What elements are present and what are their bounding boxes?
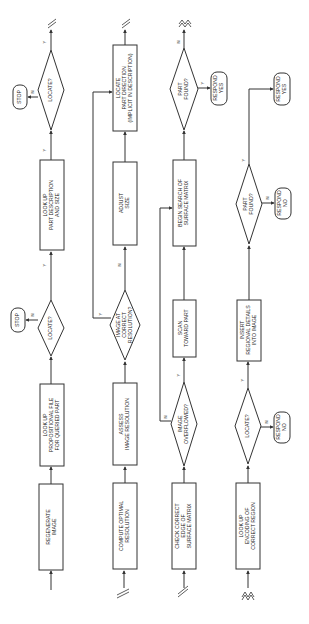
node-label: IMAGE [51,518,57,535]
node-label: CORRECT REGION [250,502,256,550]
branch-label-yes: Y [42,263,47,266]
process-compute-optimal-resolution: COMPUTE OPTIMAL RESOLUTION [113,483,137,569]
branch-label-yes: Y [42,40,47,43]
branch-label-yes: Y [42,148,47,151]
branch-label-no: N [264,420,269,423]
terminal-respond-yes-2: RESPOND YES [274,73,290,105]
continuation-double-slash-icon [117,589,129,598]
node-label: STOP [14,312,20,327]
decision-image-overflowed: IMAGE OVERFLOWED? [171,382,197,466]
decision-locate-2: LOCATE? [38,50,64,130]
process-locate-part-direction: LOCATE PART DIRECTION (IMPLICIT IN DESCR… [113,45,137,131]
column-4: LOOK UP ENCODING OF CORRECT REGION LOCAT… [235,73,291,600]
branch-label-no: N [117,263,122,266]
node-label: RESOLUTION? [127,307,133,344]
terminal-stop-1: STOP [11,308,25,332]
process-lookup-encoding: LOOK UP ENCODING OF CORRECT REGION [236,483,260,569]
process-lookup-propositional-file: LOOK UP PROPOSITIONAL FILE FOR QUERIED P… [40,384,64,466]
branch-label-yes: Y [176,373,181,376]
node-label: NO [281,423,287,431]
continuation-zigzag-icon [179,20,191,27]
continuation-zigzag-icon [242,592,254,600]
connector-yes-loop [93,92,112,318]
terminal-respond-no-2: RESPOND NO [275,188,291,219]
node-label: LOCATE? [47,316,53,339]
branch-label-yes: Y [200,81,205,84]
branch-label-no: N [30,313,35,316]
process-lookup-part-description: LOOK UP PART DESCRIPTION AND SIZE [40,160,64,250]
node-label: AND SIZE [54,193,60,217]
process-begin-search: BEGIN SEARCH OF SURFACE MATRIX [173,160,196,246]
branch-label-yes: Y [98,312,103,315]
node-label: FOR QUERIED PART [54,399,60,451]
node-label: IMAGE RESOLUTION [124,398,130,450]
column-3: CHECK CORRECT EDGE OF SURFACE MATRIX IMA… [160,20,227,597]
node-label: LOCATE? [47,78,53,101]
branch-label-no: N [163,415,168,418]
node-label: OVERFLOWED? [183,404,189,444]
node-label: NO [282,199,288,207]
process-assess-image-resolution: ASSESS IMAGE RESOLUTION [113,383,137,465]
node-label: SURFACE MATRIX [186,503,192,549]
node-label: (IMPLICIT IN DESCRIPTION) [127,53,133,122]
connector-yes [249,89,273,164]
node-label: RESOLUTION [124,509,130,543]
column-1: REGENERATE IMAGE LOOK UP PROPOSITIONAL F… [11,19,64,590]
node-label: TOWARD PART [183,308,189,346]
node-label: SIZE [124,197,130,209]
process-insert-regional-details: INSERT REGIONAL DETAILS INTO IMAGE [237,300,261,361]
terminal-respond-yes-1: RESPOND YES [211,72,227,105]
decision-part-found-2: PART FOUND? [236,164,262,244]
terminal-stop-2: STOP [13,85,27,109]
branch-label-no: N [265,196,270,199]
branch-label-yes: Y [241,158,246,161]
branch-label-yes: Y [240,378,245,381]
branch-label-no: N [30,90,35,93]
decision-part-found-1: PART FOUND? [170,48,198,130]
node-label: FOUND? [248,193,254,214]
continuation-double-slash-icon [48,19,56,28]
branch-label-no: N [176,40,181,43]
connector-no-loop [160,208,172,421]
node-label: LOCATE? [244,414,250,437]
decision-image-correct-resolution: IMAGE AT CORRECT RESOLUTION? [110,290,140,360]
decision-locate-3: LOCATE? [235,388,261,464]
terminal-respond-no-1: RESPOND NO [274,412,290,443]
node-label: SURFACE MATRIX [183,180,189,226]
column-2: COMPUTE OPTIMAL RESOLUTION ASSESS IMAGE … [93,19,140,598]
flowchart: REGENERATE IMAGE LOOK UP PROPOSITIONAL F… [0,0,309,624]
node-label: STOP [16,89,22,104]
continuation-double-slash-icon [122,19,130,28]
process-scan-toward-part: SCAN TOWARD PART [173,300,196,357]
node-label: INTO IMAGE [251,314,257,345]
decision-locate-1: LOCATE? [38,300,64,356]
process-adjust-size: ADJUST SIZE [113,162,137,245]
process-regenerate-image: REGENERATE IMAGE [39,484,63,570]
node-label: YES [218,82,224,93]
process-check-correct-edge: CHECK CORRECT EDGE OF SURFACE MATRIX [172,483,196,569]
node-label: FOUND? [183,78,189,99]
continuation-double-slash-icon [178,586,188,597]
node-label: YES [281,83,287,94]
